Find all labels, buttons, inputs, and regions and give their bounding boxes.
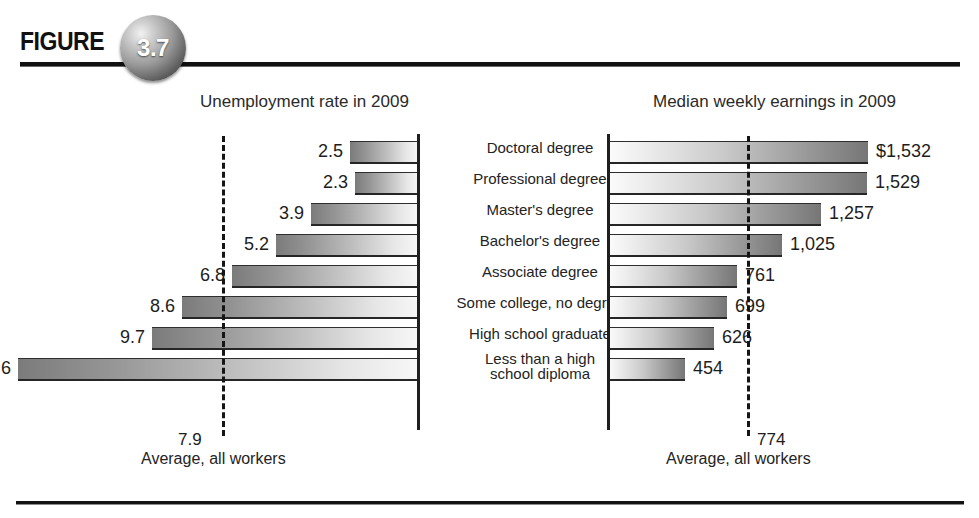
earnings-value-label: 1,257 (829, 203, 874, 224)
unemployment-bar (182, 296, 418, 319)
earnings-value-label: $1,532 (876, 141, 931, 162)
unemployment-bar (276, 234, 418, 257)
unemployment-bar (232, 265, 418, 288)
unemployment-value-label: 9.7 (120, 327, 145, 348)
right-average-caption: Average, all workers (666, 450, 811, 468)
unemployment-value-label: 3.9 (279, 203, 304, 224)
earnings-value-label: 454 (693, 358, 723, 379)
figure-header: FIGURE 3.7 (0, 0, 979, 80)
right-average-value: 774 (757, 430, 785, 450)
footer-rule (16, 501, 964, 504)
earnings-bar (608, 141, 868, 164)
figure-number: 3.7 (120, 15, 186, 81)
unemployment-value-label: 5.2 (244, 234, 269, 255)
unemployment-value-label: 8.6 (150, 296, 175, 317)
unemployment-value-label: 2.5 (318, 141, 343, 162)
chart-row: 8.6Some college, no degree699 (0, 292, 979, 323)
left-chart-axis (417, 134, 420, 430)
chart-area: 2.5Doctoral degree$1,5322.3Professional … (0, 132, 979, 432)
unemployment-value-label: 2.3 (323, 172, 348, 193)
unemployment-bar (355, 172, 418, 195)
unemployment-bar (18, 358, 418, 381)
left-average-dashed-line (222, 136, 225, 436)
figure-label: FIGURE (20, 27, 104, 56)
chart-row: 6.8Associate degree761 (0, 261, 979, 292)
earnings-bar (608, 327, 714, 350)
unemployment-value-label: 14.6 (0, 358, 11, 379)
earnings-bar (608, 203, 821, 226)
chart-row: 3.9Master's degree1,257 (0, 199, 979, 230)
unemployment-bar (311, 203, 418, 226)
earnings-value-label: 1,529 (875, 172, 920, 193)
earnings-value-label: 1,025 (790, 234, 835, 255)
left-average-caption: Average, all workers (141, 450, 286, 468)
earnings-bar (608, 172, 867, 195)
earnings-bar (608, 265, 737, 288)
chart-row: 2.3Professional degree1,529 (0, 168, 979, 199)
unemployment-bar (152, 327, 418, 350)
earnings-value-label: 699 (735, 296, 765, 317)
right-average-dashed-line (747, 136, 750, 436)
unemployment-bar (350, 141, 418, 164)
chart-row: 2.5Doctoral degree$1,532 (0, 137, 979, 168)
chart-row: 5.2Bachelor's degree1,025 (0, 230, 979, 261)
left-average-value: 7.9 (178, 430, 202, 450)
right-chart-axis (607, 134, 610, 430)
right-panel-title: Median weekly earnings in 2009 (653, 92, 896, 112)
left-panel-title: Unemployment rate in 2009 (200, 92, 409, 112)
earnings-bar (608, 234, 782, 257)
chart-row: 14.6Less than a highschool diploma454 (0, 354, 979, 385)
earnings-bar (608, 296, 727, 319)
earnings-bar (608, 358, 685, 381)
